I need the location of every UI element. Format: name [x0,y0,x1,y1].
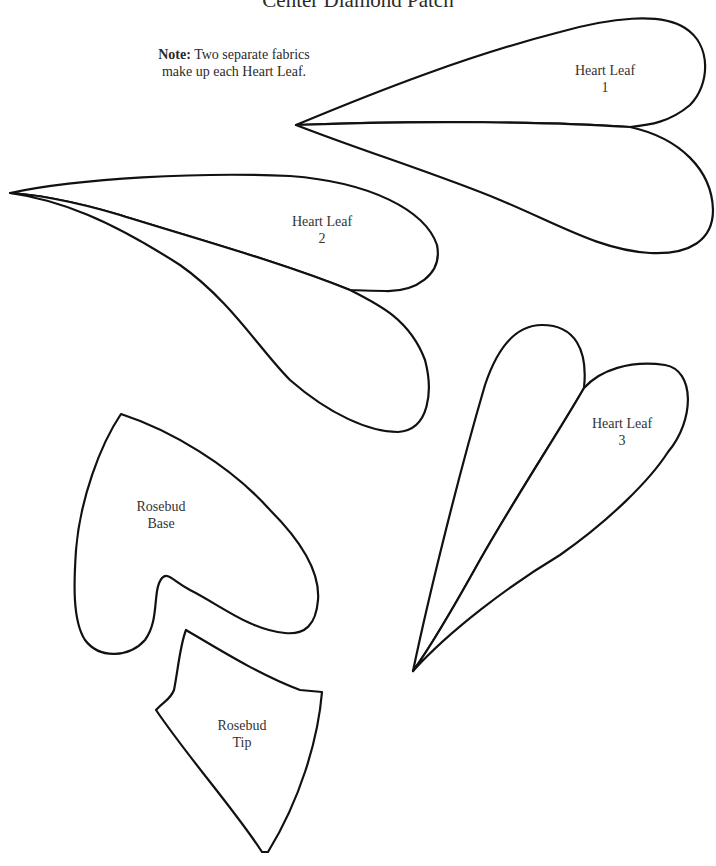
rosebud-base-name: Rosebud [137,499,186,514]
rosebud-base-sub: Base [147,516,174,531]
rosebud-tip-label: Rosebud Tip [218,717,267,751]
heart-leaf-1-label: Heart Leaf 1 [575,62,635,96]
rosebud-base-shape [75,414,319,654]
rosebud-tip-sub: Tip [233,735,252,750]
heart-leaf-1-name: Heart Leaf [575,63,635,78]
heart-leaf-2-label: Heart Leaf 2 [292,213,352,247]
heart-leaf-1-number: 1 [601,80,608,95]
heart-leaf-2-name: Heart Leaf [292,214,352,229]
heart-leaf-3-number: 3 [618,433,625,448]
heart-leaf-3-name: Heart Leaf [592,416,652,431]
heart-leaf-2-number: 2 [318,231,325,246]
heart-leaf-2-shape [10,175,438,432]
rosebud-tip-name: Rosebud [218,718,267,733]
heart-leaf-3-label: Heart Leaf 3 [592,415,652,449]
heart-leaf-3-shape [413,325,688,671]
rosebud-base-label: Rosebud Base [137,498,186,532]
